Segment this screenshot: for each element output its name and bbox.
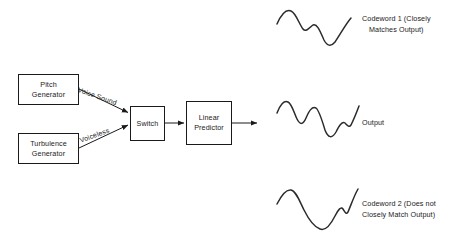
waveform-label-codeword-2: Codeword 2 (Does not Closely Match Outpu… (362, 198, 436, 220)
block-pitch-generator: Pitch Generator (18, 74, 79, 105)
waveform-label-codeword-1-line2: Matches Output) (362, 24, 431, 35)
waveform-label-codeword-1-line1: Codeword 1 (Closely (362, 13, 431, 24)
block-switch: Switch (130, 106, 165, 141)
waveform-label-output-line1: Output (362, 117, 384, 128)
waveform-codeword-2 (277, 189, 358, 229)
waveform-label-output: Output (362, 117, 384, 128)
block-pitch-generator-line2: Generator (32, 90, 65, 100)
block-linear-predictor-line2: Predictor (194, 123, 224, 133)
block-turbulence-generator-line1: Turbulence (30, 139, 67, 149)
figure-canvas: Pitch Generator Turbulence Generator Swi… (0, 0, 465, 238)
block-pitch-generator-line1: Pitch (40, 80, 56, 90)
block-switch-line1: Switch (137, 119, 159, 129)
waveform-codeword-1 (277, 11, 351, 46)
block-turbulence-generator: Turbulence Generator (18, 133, 79, 164)
waveform-output (277, 102, 359, 137)
waveform-label-codeword-2-line2: Closely Match Output) (362, 209, 436, 220)
waveform-label-codeword-1: Codeword 1 (Closely Matches Output) (362, 13, 431, 35)
block-linear-predictor-line1: Linear (199, 113, 220, 123)
block-linear-predictor: Linear Predictor (186, 101, 232, 145)
waveform-label-codeword-2-line1: Codeword 2 (Does not (362, 198, 436, 209)
block-turbulence-generator-line2: Generator (32, 149, 65, 159)
